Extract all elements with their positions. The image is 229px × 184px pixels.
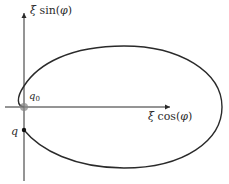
point-label-q0: q0 xyxy=(29,91,40,103)
point-dot-q xyxy=(22,128,26,132)
x-axis-label: ξ cos(φ) xyxy=(148,111,192,122)
y-label-func: sin( xyxy=(36,4,60,17)
point-label-q: q xyxy=(11,126,18,137)
y-label-close: ) xyxy=(68,4,72,17)
x-label-close: ) xyxy=(188,110,192,123)
origin-dot-q0 xyxy=(20,103,28,111)
q0-subscript: 0 xyxy=(35,95,39,103)
q-base: q xyxy=(11,125,18,138)
y-label-arg: φ xyxy=(60,4,68,17)
y-axis-label: ξ sin(φ) xyxy=(30,5,72,16)
x-label-arg: φ xyxy=(180,110,188,123)
x-label-func: cos( xyxy=(154,110,180,123)
